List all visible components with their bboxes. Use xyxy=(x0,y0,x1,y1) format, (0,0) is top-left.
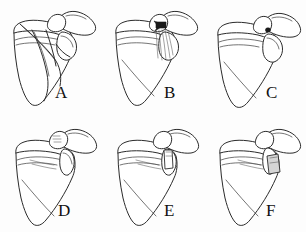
glenoid-d xyxy=(60,149,74,175)
panel-label-e: E xyxy=(164,202,175,219)
shaded-block-graft-f xyxy=(267,154,280,174)
scapula-drawing-f xyxy=(204,116,306,232)
coracoid-a xyxy=(47,14,65,31)
panel-label-a: A xyxy=(55,84,68,101)
panel-label-b: B xyxy=(164,84,176,101)
scapula-drawing-b xyxy=(102,0,204,116)
panel-a: A xyxy=(0,0,102,116)
scapula-drawing-d xyxy=(0,116,102,232)
panel-f: F xyxy=(204,116,306,232)
panel-d: D xyxy=(0,116,102,232)
panel-label-c: C xyxy=(266,84,278,101)
glenoid-c xyxy=(263,34,283,62)
glenoid-a xyxy=(57,32,77,60)
dark-dot-marker-c xyxy=(265,28,270,32)
coracoid-f xyxy=(255,131,273,148)
figure-root: A xyxy=(0,0,306,232)
scapula-drawing-a xyxy=(0,0,102,116)
panel-b: B xyxy=(102,0,204,116)
panel-e: E xyxy=(102,116,204,232)
panel-label-f: F xyxy=(266,202,276,219)
coracoid-e xyxy=(153,131,171,148)
panel-c: C xyxy=(204,0,306,116)
coracoid-d xyxy=(49,131,67,148)
scapula-drawing-c xyxy=(204,0,306,116)
open-block-graft-e xyxy=(164,150,173,169)
scapula-drawing-e xyxy=(102,116,204,232)
panel-label-d: D xyxy=(58,202,71,219)
